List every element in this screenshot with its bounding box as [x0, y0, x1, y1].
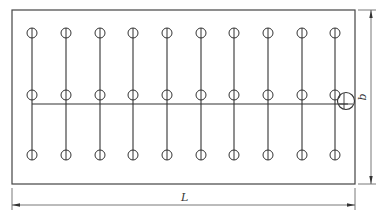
well-column	[263, 28, 273, 160]
well-column	[297, 28, 307, 160]
well-column	[95, 28, 105, 160]
diagram-canvas: L b	[0, 0, 380, 220]
arrow-up-icon	[369, 10, 372, 18]
pump-icon	[338, 93, 355, 110]
width-label: b	[356, 93, 369, 100]
well-column	[162, 28, 172, 160]
length-label: L	[180, 191, 188, 204]
arrow-right-icon	[347, 203, 355, 206]
width-dimension: b	[356, 10, 376, 184]
well-column	[229, 28, 239, 160]
well-column	[27, 28, 37, 160]
well-column	[196, 28, 206, 160]
well-column	[330, 28, 340, 160]
arrow-left-icon	[12, 203, 20, 206]
well-column	[128, 28, 138, 160]
well-columns	[27, 28, 340, 160]
well-column	[61, 28, 71, 160]
length-dimension: L	[12, 188, 355, 210]
arrow-down-icon	[369, 176, 372, 184]
